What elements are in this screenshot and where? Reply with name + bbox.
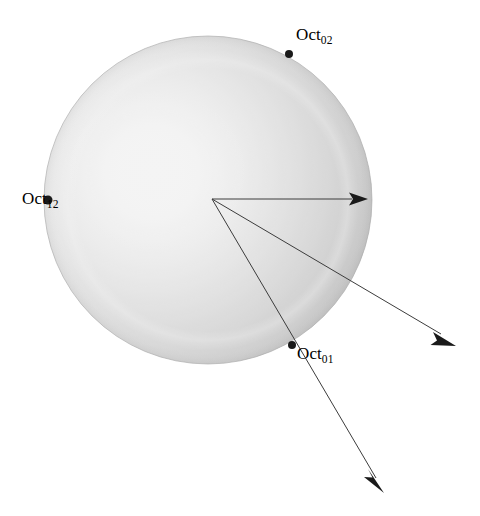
arrowhead-lower-right — [431, 332, 457, 346]
figure-root: Oct02 Oct12 Oct01 — [0, 0, 480, 516]
label-oct02: Oct02 — [296, 26, 333, 43]
sphere-ray-diagram — [0, 0, 480, 516]
label-oct02-subscript: 02 — [321, 34, 333, 46]
label-oct01-subscript: 01 — [322, 353, 334, 365]
label-oct12-base: Oct — [22, 189, 47, 208]
label-oct02-base: Oct — [296, 25, 321, 44]
marker-oct02[interactable] — [285, 50, 293, 58]
sphere-grain-overlay — [44, 36, 372, 364]
label-oct01-base: Oct — [297, 344, 322, 363]
arrowhead-through-oct01 — [364, 469, 384, 493]
marker-oct01[interactable] — [288, 341, 296, 349]
label-oct12: Oct12 — [22, 190, 59, 207]
label-oct01: Oct01 — [297, 345, 334, 362]
label-oct12-subscript: 12 — [47, 198, 59, 210]
sphere-group — [44, 36, 372, 364]
